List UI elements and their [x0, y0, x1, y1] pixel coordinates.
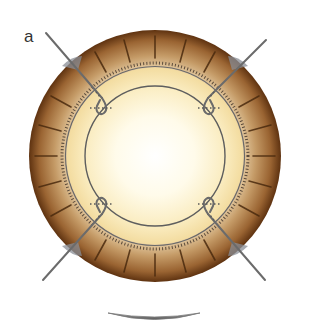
ring-diagram [0, 0, 309, 332]
inner-band [67, 68, 244, 245]
figure: a [0, 0, 309, 332]
side-profile-arc [108, 313, 200, 320]
